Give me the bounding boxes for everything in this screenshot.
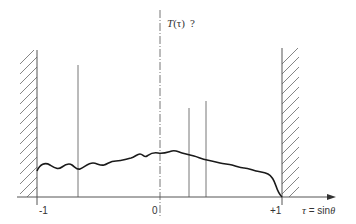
right-wall [276, 40, 306, 210]
diagram-canvas: T(τ)? -1 0 +1 τ = sinθ [0, 0, 356, 224]
left-wall [14, 40, 44, 220]
axis-label: τ = sinθ [302, 204, 335, 216]
x-axis [17, 194, 336, 200]
tick-label-zero: 0 [152, 205, 158, 216]
tick-label-plus-one: +1 [270, 205, 282, 216]
arrow-right-icon [327, 194, 336, 200]
distribution-curve [37, 151, 282, 197]
tick-label-minus-one: -1 [39, 205, 48, 216]
title-label: T(τ)? [167, 17, 195, 30]
